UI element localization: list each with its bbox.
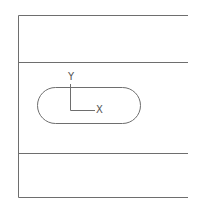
- x-axis-label: X: [96, 104, 103, 115]
- y-axis-label: Y: [67, 71, 75, 82]
- coordinate-axes: Y X: [67, 71, 103, 115]
- frame: [19, 16, 189, 198]
- sketch-canvas: Y X: [0, 0, 207, 210]
- slot-shape: [38, 88, 141, 124]
